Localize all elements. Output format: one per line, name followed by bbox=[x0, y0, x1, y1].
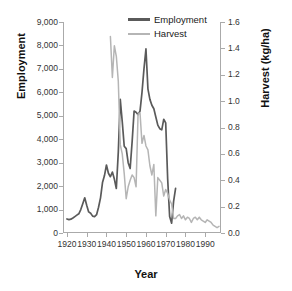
y-axis-right-tick-label: 0.8 bbox=[228, 122, 258, 132]
y-axis-left-tick-label: 8,000 bbox=[18, 40, 58, 50]
y-axis-right-tick-mark bbox=[221, 233, 225, 234]
y-axis-left-tick-label: 6,000 bbox=[18, 87, 58, 97]
y-axis-right-tick-mark bbox=[221, 22, 225, 23]
chart-container: Employment Harvest (kg/ha) Year 01,0002,… bbox=[0, 0, 292, 291]
y-axis-right-tick-mark bbox=[221, 75, 225, 76]
y-axis-left-tick-label: 4,000 bbox=[18, 134, 58, 144]
x-axis-tick-label: 1990 bbox=[188, 239, 222, 249]
y-axis-right-title: Harvest (kg/ha) bbox=[259, 0, 271, 138]
series-line-employment bbox=[67, 49, 176, 223]
legend-label: Employment bbox=[154, 14, 207, 25]
x-axis-tick-mark bbox=[126, 233, 127, 237]
x-axis-tick-mark bbox=[166, 233, 167, 237]
y-axis-left-tick-label: 2,000 bbox=[18, 181, 58, 191]
y-axis-right-tick-mark bbox=[221, 48, 225, 49]
x-axis-tick-mark bbox=[87, 233, 88, 237]
y-axis-right-tick-mark bbox=[221, 154, 225, 155]
legend-swatch-harvest bbox=[128, 33, 150, 35]
y-axis-right-tick-label: 0.6 bbox=[228, 148, 258, 158]
legend-item-employment: Employment bbox=[128, 14, 207, 25]
plot-area bbox=[63, 22, 221, 233]
y-axis-left-tick-label: 0 bbox=[18, 228, 58, 238]
y-axis-left-tick-label: 5,000 bbox=[18, 110, 58, 120]
x-axis-tick-mark bbox=[67, 233, 68, 237]
x-axis-tick-mark bbox=[106, 233, 107, 237]
series-line-harvest bbox=[110, 37, 219, 228]
series-layer bbox=[63, 22, 221, 233]
y-axis-right-tick-mark bbox=[221, 101, 225, 102]
y-axis-right-tick-label: 1.2 bbox=[228, 69, 258, 79]
x-axis-title: Year bbox=[0, 268, 292, 280]
y-axis-right-tick-mark bbox=[221, 207, 225, 208]
y-axis-right-tick-label: 1.0 bbox=[228, 96, 258, 106]
y-axis-right-tick-mark bbox=[221, 128, 225, 129]
y-axis-left-tick-label: 9,000 bbox=[18, 17, 58, 27]
y-axis-left-tick-label: 7,000 bbox=[18, 63, 58, 73]
y-axis-right-tick-label: 1.6 bbox=[228, 17, 258, 27]
y-axis-right-tick-mark bbox=[221, 180, 225, 181]
y-axis-left-tick-label: 3,000 bbox=[18, 157, 58, 167]
y-axis-right-tick-label: 0.2 bbox=[228, 201, 258, 211]
legend-item-harvest: Harvest bbox=[128, 28, 207, 39]
legend-swatch-employment bbox=[128, 18, 150, 21]
legend-label: Harvest bbox=[154, 28, 187, 39]
x-axis-tick-mark bbox=[185, 233, 186, 237]
x-axis-tick-mark bbox=[205, 233, 206, 237]
y-axis-right-tick-label: 1.4 bbox=[228, 43, 258, 53]
y-axis-right-tick-label: 0.4 bbox=[228, 175, 258, 185]
y-axis-right-tick-label: 0.0 bbox=[228, 228, 258, 238]
chart-legend: EmploymentHarvest bbox=[128, 14, 207, 39]
y-axis-left-tick-label: 1,000 bbox=[18, 204, 58, 214]
x-axis-tick-mark bbox=[146, 233, 147, 237]
y-axis-left-tick-mark bbox=[59, 233, 63, 234]
